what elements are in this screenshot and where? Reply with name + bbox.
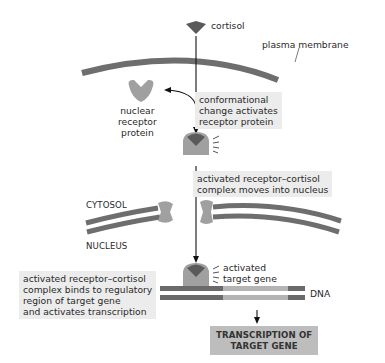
nuclear-pore-icon (200, 200, 213, 224)
step-binds-regulatory-region: activated receptor–cortisol complex bind… (19, 271, 156, 319)
cortisol-icon (186, 21, 206, 34)
nuclear-pore-icon (158, 201, 173, 223)
plasma-membrane-label: plasma membrane (262, 39, 349, 50)
nuclear-receptor-label: nuclear receptor protein (118, 105, 157, 138)
nuclear-envelope-right (200, 200, 341, 232)
nuclear-receptor-icon (129, 80, 154, 102)
nucleus-label: NUCLEUS (86, 241, 127, 252)
activated-receptor-icon (183, 132, 219, 155)
step-moves-into-nucleus: activated receptor–cortisol complex move… (193, 171, 332, 197)
receptor-binding-arrow (168, 90, 196, 107)
activated-target-gene-label: activated target gene (223, 262, 277, 284)
step-conformational-change: conformational change activates receptor… (195, 92, 282, 129)
dna-double-helix (160, 286, 305, 300)
dna-label: DNA (310, 288, 330, 299)
result-transcription-box: TRANSCRIPTION OF TARGET GENE (210, 326, 318, 355)
plasma-membrane (82, 61, 278, 80)
plasma-membrane-leader (295, 48, 299, 62)
cytosol-label: CYTOSOL (86, 200, 127, 211)
bound-receptor-icon (183, 263, 219, 286)
cortisol-label: cortisol (211, 20, 245, 31)
